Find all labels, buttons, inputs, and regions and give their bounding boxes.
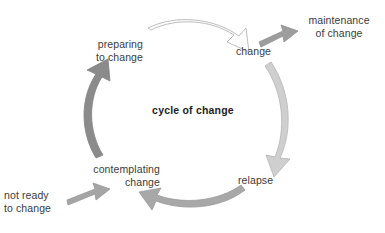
outcome-label-maintenance-of-change: maintenance of change (296, 14, 382, 39)
cycle-of-change-diagram: preparing to change change maintenance o… (0, 0, 385, 233)
arrow-preparing-to-change (148, 20, 249, 52)
arrow-change-to-maintenance (259, 25, 298, 47)
stage-label-preparing-to-change: preparing to change (55, 38, 143, 63)
arrow-relapse-to-contemplating (139, 185, 245, 210)
arrow-contemplating-to-preparing (84, 59, 110, 158)
stage-label-change: change (236, 45, 296, 58)
stage-label-contemplating-change: contemplating change (76, 163, 160, 188)
arrow-change-to-relapse (265, 62, 290, 177)
diagram-center-title: cycle of change (138, 104, 248, 117)
entry-label-not-ready-to-change: not ready to change (4, 189, 66, 214)
stage-label-relapse: relapse (238, 174, 294, 187)
